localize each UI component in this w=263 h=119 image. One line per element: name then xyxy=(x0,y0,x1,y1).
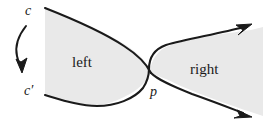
figure-graphics xyxy=(0,0,263,119)
curved-down-arrow-icon-head xyxy=(16,58,27,73)
label-left-region: left xyxy=(72,55,92,70)
label-c: c xyxy=(25,4,31,18)
label-c-prime: c′ xyxy=(24,84,33,98)
label-p: p xyxy=(150,85,157,99)
left-region-fill xyxy=(45,8,150,106)
figure-canvas: c c′ p left right xyxy=(0,0,263,119)
label-right-region: right xyxy=(190,62,218,77)
